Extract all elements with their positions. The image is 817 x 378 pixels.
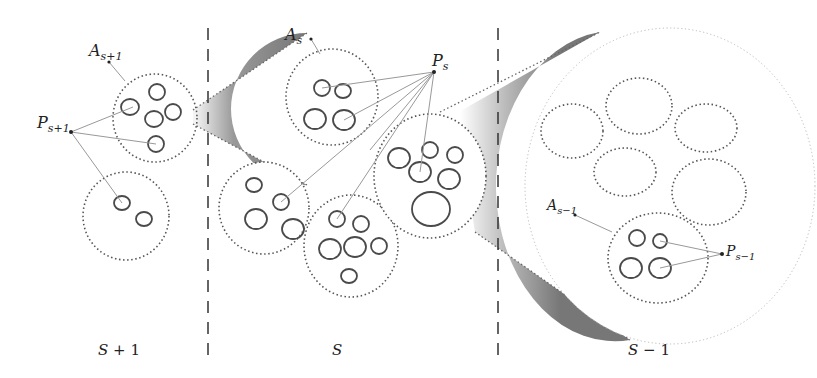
label-a-s: As xyxy=(283,25,303,47)
zoomed-region-circle xyxy=(525,28,815,344)
scale-label-s-minus-1: S − 1 xyxy=(628,341,670,359)
scale-label-s: S xyxy=(332,341,342,359)
scale-label-s-plus-1: S + 1 xyxy=(98,341,140,359)
diagram-canvas: As+1 Ps+1 As Ps As−1 Ps−1 S + 1 S S − 1 xyxy=(0,0,817,378)
label-p-s: Ps xyxy=(431,51,449,73)
label-p-s-plus-1: Ps+1 xyxy=(36,113,70,135)
hierarchical-scale-diagram: As+1 Ps+1 As Ps As−1 Ps−1 S + 1 S S − 1 xyxy=(0,0,817,378)
label-a-s-plus-1: As+1 xyxy=(87,41,122,63)
